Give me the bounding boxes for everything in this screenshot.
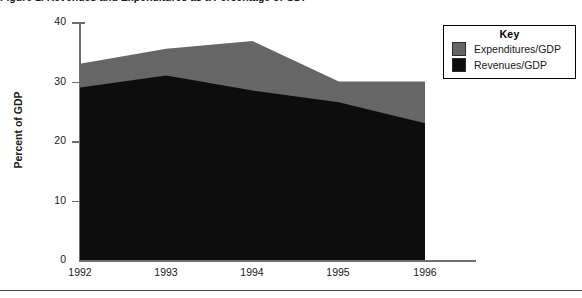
x-tick-label-1994: 1994: [222, 266, 282, 278]
figure-container: Figure 1. Revenues and Expenditures as a…: [0, 0, 582, 298]
x-tick-label-1996: 1996: [395, 266, 455, 278]
x-axis-line: [79, 260, 476, 262]
x-tick-label-1992: 1992: [50, 266, 110, 278]
legend-item-label: Expenditures/GDP: [474, 43, 561, 55]
footer-divider: [0, 290, 582, 291]
legend-item-label: Revenues/GDP: [474, 59, 547, 71]
x-tick-label-1993: 1993: [136, 266, 196, 278]
color-swatch-icon: [452, 42, 466, 56]
legend-item-revenues: Revenues/GDP: [444, 58, 575, 72]
legend: Key Expenditures/GDP Revenues/GDP: [443, 25, 576, 79]
legend-item-expenditures: Expenditures/GDP: [444, 42, 575, 56]
x-tick-label-1995: 1995: [308, 266, 368, 278]
color-swatch-icon: [452, 58, 466, 72]
legend-title: Key: [444, 28, 575, 40]
